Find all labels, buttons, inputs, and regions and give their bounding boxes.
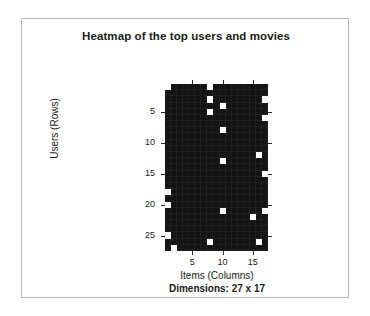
heatmap-grid [165, 84, 268, 251]
y-axis-tick-right [268, 112, 272, 113]
x-axis-tick-label: 10 [211, 257, 235, 267]
y-axis-tick-right [268, 236, 272, 237]
heatmap-plot-area[interactable] [165, 84, 268, 251]
x-axis-label: Items (Columns) [117, 270, 317, 281]
y-axis-tick [161, 112, 165, 113]
y-axis-tick [161, 143, 165, 144]
y-axis-tick-right [268, 174, 272, 175]
figure-frame: Heatmap of the top users and movies User… [21, 18, 349, 298]
y-axis-tick-label: 20 [129, 199, 155, 209]
y-axis-tick-label: 15 [129, 168, 155, 178]
x-axis-tick-label: 15 [241, 257, 265, 267]
screenshot-root: Heatmap of the top users and movies User… [0, 0, 370, 316]
y-axis-tick-label: 5 [129, 106, 155, 116]
y-axis-tick [161, 174, 165, 175]
x-axis-tick-top [192, 80, 193, 84]
y-axis-label: Users (Rows) [49, 69, 60, 189]
y-axis-tick-right [268, 143, 272, 144]
heatmap-cell [262, 245, 268, 251]
y-axis-tick [161, 205, 165, 206]
x-axis-tick-label: 5 [180, 257, 204, 267]
page-title: Heatmap of the top users and movies [22, 30, 350, 42]
y-axis-tick-label: 25 [129, 230, 155, 240]
x-axis-tick [223, 251, 224, 255]
x-axis-tick-top [223, 80, 224, 84]
y-axis-tick-right [268, 205, 272, 206]
dimensions-caption: Dimensions: 27 x 17 [117, 283, 317, 294]
y-axis-tick [161, 236, 165, 237]
x-axis-tick-top [253, 80, 254, 84]
y-axis-tick-label: 10 [129, 137, 155, 147]
x-axis-tick [253, 251, 254, 255]
x-axis-tick [192, 251, 193, 255]
